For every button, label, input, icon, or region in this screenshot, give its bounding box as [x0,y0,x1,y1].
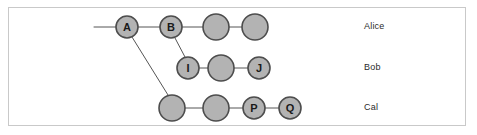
lane-label-alice: Alice [364,21,385,31]
commit-node[interactable] [208,55,234,81]
commit-graph-figure: ABIJPQ AliceBobCal [0,0,477,135]
commit-node[interactable] [159,95,185,121]
commit-node[interactable] [203,95,229,121]
commit-edge [132,37,168,95]
commit-node-circle [242,14,268,40]
commit-node-b[interactable]: B [160,16,182,38]
commit-node[interactable] [242,14,268,40]
commit-node-label: B [167,21,175,33]
lane-label-cal: Cal [364,102,378,112]
commit-node-label: Q [286,102,295,114]
commit-node-circle [208,55,234,81]
commit-node-label: J [256,62,262,74]
commit-node-p[interactable]: P [243,97,265,119]
commit-node-label: A [123,21,131,33]
node-layer: ABIJPQ [116,14,301,121]
commit-node-j[interactable]: J [248,57,270,79]
commit-node-circle [203,14,229,40]
commit-node-label: P [250,102,257,114]
commit-node-label: I [186,62,189,74]
commit-graph-canvas: ABIJPQ [0,0,477,135]
commit-node[interactable] [203,14,229,40]
commit-edge [175,38,185,57]
commit-node-i[interactable]: I [177,57,199,79]
commit-node-a[interactable]: A [116,16,138,38]
commit-node-circle [203,95,229,121]
commit-node-q[interactable]: Q [279,97,301,119]
commit-node-circle [159,95,185,121]
lane-label-bob: Bob [364,62,381,72]
